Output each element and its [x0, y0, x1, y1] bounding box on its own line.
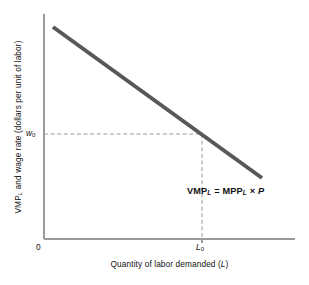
vmp-demand-curve	[53, 27, 262, 178]
x-axis-title: Quantity of labor demanded (L)	[44, 260, 295, 268]
annotation-equals: =	[212, 186, 223, 196]
origin-label: 0	[36, 243, 41, 251]
annotation-price: P	[258, 186, 264, 196]
annotation-vmp: VMP	[187, 186, 207, 196]
y-axis-title-subscript: L	[17, 192, 23, 195]
vmp-labor-demand-chart: VMPL and wage rate (dollars per unit of …	[0, 0, 309, 285]
annotation-times: ×	[247, 186, 258, 196]
y-axis-title: VMPL and wage rate (dollars per unit of …	[14, 12, 28, 242]
y-axis-title-tail: and wage rate (dollars per unit of labor…	[13, 40, 23, 191]
x-axis-title-main: Quantity of labor demanded (	[111, 259, 221, 269]
y-tick-label-w0-subscript: 0	[32, 132, 35, 138]
y-tick-label-w0: w0	[26, 129, 35, 139]
y-axis-title-head: VMP	[13, 195, 23, 213]
x-axis-title-tail: )	[226, 259, 229, 269]
x-tick-label-l0: L0	[196, 243, 204, 253]
annotation-mpp: MPP	[222, 186, 242, 196]
x-tick-label-l0-subscript: 0	[201, 246, 204, 252]
vmp-equation-annotation: VMPL = MPPL × P	[187, 187, 264, 197]
chart-plot-area	[0, 0, 309, 285]
